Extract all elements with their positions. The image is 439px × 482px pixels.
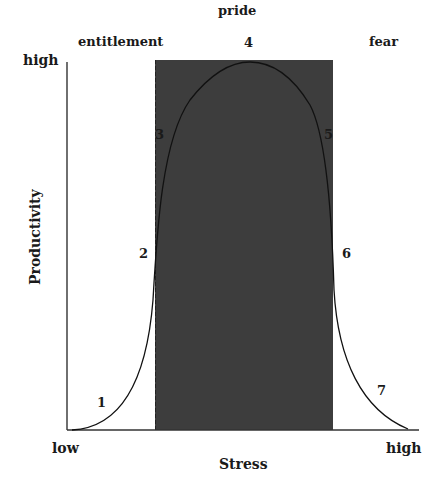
x-tick-low: low — [52, 440, 79, 456]
zone-label-pride: pride — [218, 3, 256, 18]
zone-label-fear: fear — [369, 34, 398, 49]
point-label-7: 7 — [377, 383, 386, 398]
x-axis-title: Stress — [219, 456, 268, 472]
zone-label-entitlement: entitlement — [78, 34, 163, 49]
point-label-3: 3 — [155, 127, 164, 142]
y-axis-title: Productivity — [27, 195, 43, 285]
point-label-6: 6 — [342, 246, 351, 261]
point-label-4: 4 — [244, 35, 253, 50]
x-tick-high: high — [386, 440, 421, 456]
point-label-1: 1 — [97, 395, 106, 410]
point-label-2: 2 — [139, 246, 148, 261]
point-label-5: 5 — [324, 127, 333, 142]
productivity-stress-chart — [0, 0, 439, 482]
y-tick-high: high — [23, 52, 58, 68]
